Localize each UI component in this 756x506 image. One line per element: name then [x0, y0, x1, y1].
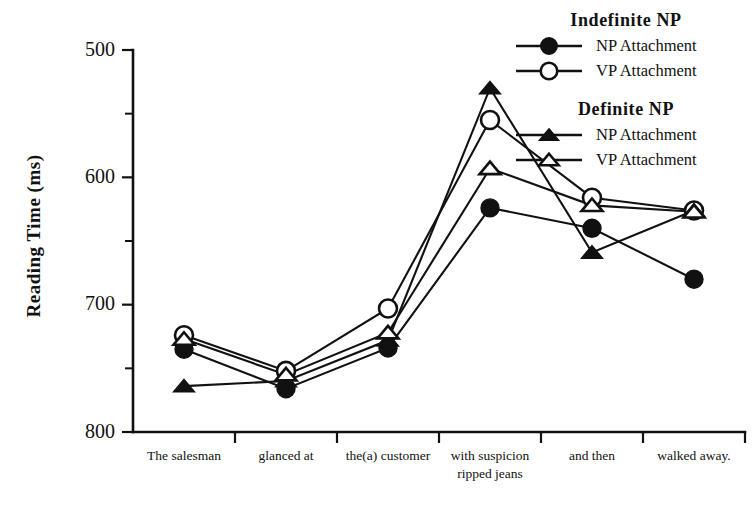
legend-marker-filled-circle-icon [512, 34, 586, 58]
y-axis-tick-labels: 800700600500 [85, 38, 115, 442]
x-tick-label: walked away. [657, 448, 730, 463]
data-point-marker [481, 111, 499, 129]
legend-item-label: NP Attachment [596, 125, 697, 145]
reading-time-line-chart: 800700600500 The salesmanglanced atthe(a… [0, 0, 756, 506]
x-tick-label-line2: ripped jeans [457, 466, 523, 481]
x-tick-label: the(a) customer [346, 448, 431, 463]
legend-item-label: VP Attachment [596, 61, 697, 81]
legend-marker-open-triangle-icon [512, 148, 586, 172]
x-axis-tick-labels: The salesmanglanced atthe(a) customerwit… [147, 448, 731, 481]
y-axis-ticks [122, 50, 133, 432]
data-point-marker [541, 37, 558, 54]
data-point-marker [582, 246, 603, 259]
data-point-marker [685, 270, 703, 288]
legend-item-label: NP Attachment [596, 36, 697, 56]
legend-marker-filled-triangle-icon [512, 123, 586, 147]
legend-item[interactable]: VP Attachment [512, 58, 752, 83]
y-axis-title: Reading Time (ms) [23, 106, 45, 366]
legend-item[interactable]: VP Attachment [512, 147, 752, 172]
legend-item[interactable]: NP Attachment [512, 122, 752, 147]
x-tick-label: and then [569, 448, 615, 463]
x-tick-label: with suspicion [451, 448, 530, 463]
x-tick-label: The salesman [147, 448, 221, 463]
data-point-marker [481, 199, 499, 217]
data-point-marker [541, 62, 558, 79]
legend-group-title: Indefinite NP [512, 10, 740, 31]
data-point-marker [583, 219, 601, 237]
legend-group-title: Definite NP [512, 99, 740, 120]
x-tick-label: glanced at [258, 448, 313, 463]
y-tick-label: 600 [85, 165, 115, 187]
data-point-marker [378, 326, 399, 339]
series-line [184, 168, 694, 374]
legend-item-label: VP Attachment [596, 150, 697, 170]
y-tick-label: 800 [85, 420, 115, 442]
y-tick-label: 500 [85, 38, 115, 60]
legend-marker-open-circle-icon [512, 59, 586, 83]
data-point-marker [379, 299, 397, 317]
data-point-marker [480, 81, 501, 94]
legend-item[interactable]: NP Attachment [512, 33, 752, 58]
chart-legend: Indefinite NPNP AttachmentVP AttachmentD… [512, 10, 752, 172]
data-point-marker [480, 162, 501, 175]
x-axis-ticks [235, 432, 745, 443]
y-tick-label: 700 [85, 292, 115, 314]
